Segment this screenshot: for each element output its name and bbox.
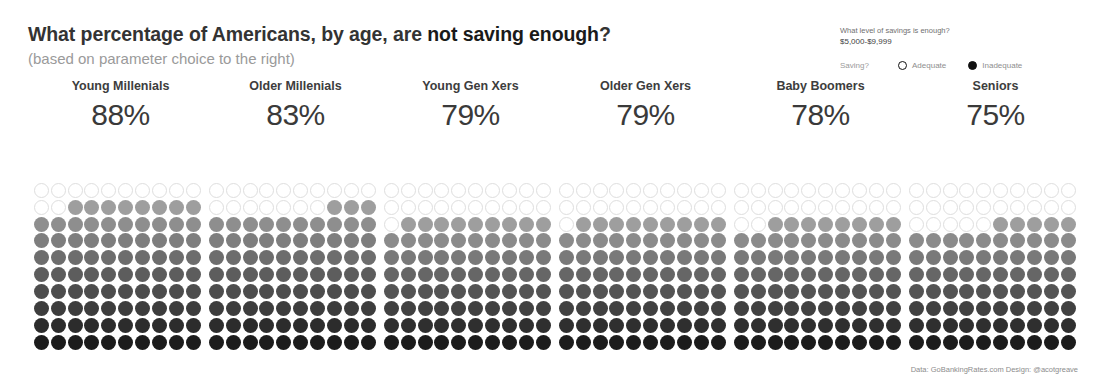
waffle-dot bbox=[959, 318, 974, 333]
waffle-dot bbox=[660, 217, 675, 232]
waffle-dot bbox=[643, 250, 658, 265]
waffle-dot bbox=[751, 183, 766, 198]
waffle-dot bbox=[485, 267, 500, 282]
legend-option-adequate[interactable]: Adequate bbox=[898, 61, 946, 70]
waffle-dot bbox=[835, 250, 850, 265]
waffle-dot bbox=[576, 284, 591, 299]
waffle-dot bbox=[327, 335, 342, 350]
column-value: 79% bbox=[616, 96, 675, 134]
waffle-dot bbox=[677, 183, 692, 198]
waffle-dot bbox=[734, 284, 749, 299]
waffle-dot bbox=[711, 217, 726, 232]
waffle-dot bbox=[576, 233, 591, 248]
waffle-dot bbox=[502, 250, 517, 265]
waffle-dot bbox=[609, 200, 624, 215]
waffle-dot bbox=[869, 183, 884, 198]
waffle-dot bbox=[310, 301, 325, 316]
waffle-dot bbox=[801, 250, 816, 265]
waffle-dot bbox=[576, 250, 591, 265]
waffle-dot bbox=[1044, 301, 1059, 316]
legend-label: Saving? bbox=[840, 61, 898, 70]
waffle-dot bbox=[186, 217, 201, 232]
waffle-dot bbox=[502, 318, 517, 333]
waffle-dot bbox=[559, 267, 574, 282]
waffle-dot bbox=[186, 267, 201, 282]
waffle-dot bbox=[327, 284, 342, 299]
waffle-dot bbox=[1061, 200, 1076, 215]
waffle-dot bbox=[751, 250, 766, 265]
waffle-dot bbox=[694, 217, 709, 232]
waffle-dot bbox=[768, 301, 783, 316]
waffle-dot bbox=[118, 250, 133, 265]
waffle-grids bbox=[33, 182, 1073, 351]
waffle-dot bbox=[536, 200, 551, 215]
waffle-dot bbox=[51, 183, 66, 198]
waffle-dot bbox=[801, 267, 816, 282]
waffle-dot bbox=[68, 301, 83, 316]
waffle-dot bbox=[84, 318, 99, 333]
waffle-dot bbox=[384, 183, 399, 198]
column-value: 78% bbox=[791, 96, 850, 134]
waffle-dot bbox=[401, 267, 416, 282]
waffle-dot bbox=[384, 318, 399, 333]
waffle-dot bbox=[576, 335, 591, 350]
waffle-dot bbox=[84, 267, 99, 282]
waffle-dot bbox=[886, 250, 901, 265]
waffle-dot bbox=[1061, 301, 1076, 316]
waffle-dot bbox=[926, 335, 941, 350]
legend-option-inadequate[interactable]: Inadequate bbox=[968, 61, 1022, 70]
waffle-dot bbox=[626, 284, 641, 299]
column-label: Young Gen Xers bbox=[422, 78, 518, 94]
waffle-dot bbox=[909, 200, 924, 215]
waffle-dot bbox=[226, 217, 241, 232]
waffle-dot bbox=[226, 318, 241, 333]
waffle-dot bbox=[660, 318, 675, 333]
waffle-dot bbox=[536, 318, 551, 333]
waffle-dot bbox=[451, 250, 466, 265]
waffle-dot bbox=[118, 267, 133, 282]
waffle-dot bbox=[768, 183, 783, 198]
waffle-dot bbox=[784, 284, 799, 299]
waffle-dot bbox=[418, 183, 433, 198]
waffle-dot bbox=[485, 200, 500, 215]
parameter-selected-value[interactable]: $5,000-$9,999 bbox=[840, 36, 1090, 47]
waffle-dot bbox=[327, 183, 342, 198]
waffle-dot bbox=[34, 217, 49, 232]
waffle-dot bbox=[976, 250, 991, 265]
waffle-dot bbox=[84, 233, 99, 248]
waffle-dot bbox=[784, 233, 799, 248]
waffle-dot bbox=[344, 284, 359, 299]
waffle-dot bbox=[101, 233, 116, 248]
waffle-dot bbox=[768, 200, 783, 215]
waffle-dot bbox=[243, 233, 258, 248]
waffle-dot bbox=[993, 284, 1008, 299]
waffle-dot bbox=[1027, 217, 1042, 232]
waffle-dot bbox=[418, 284, 433, 299]
waffle-dot bbox=[869, 200, 884, 215]
waffle-dot bbox=[993, 233, 1008, 248]
waffle-dot bbox=[68, 318, 83, 333]
waffle-dot bbox=[1044, 217, 1059, 232]
waffle-dot bbox=[451, 267, 466, 282]
waffle-dot bbox=[361, 200, 376, 215]
waffle-dot bbox=[536, 250, 551, 265]
waffle-dot bbox=[536, 217, 551, 232]
waffle-dot bbox=[1010, 284, 1025, 299]
waffle-dot bbox=[993, 217, 1008, 232]
waffle-dot bbox=[694, 284, 709, 299]
waffle-dot bbox=[801, 217, 816, 232]
waffle-dot bbox=[485, 284, 500, 299]
waffle-dot bbox=[361, 301, 376, 316]
footer-credit: Data: GoBankingRates.com Design: @acotgr… bbox=[911, 365, 1078, 374]
waffle-dot bbox=[293, 217, 308, 232]
waffle-dot bbox=[293, 301, 308, 316]
waffle-dot bbox=[68, 217, 83, 232]
waffle-dot bbox=[993, 267, 1008, 282]
waffle-dot bbox=[243, 217, 258, 232]
waffle-dot bbox=[485, 250, 500, 265]
waffle-dot bbox=[519, 284, 534, 299]
waffle-dot bbox=[1027, 200, 1042, 215]
waffle-grid bbox=[383, 182, 552, 351]
filled-circle-icon bbox=[968, 61, 977, 70]
waffle-dot bbox=[943, 200, 958, 215]
